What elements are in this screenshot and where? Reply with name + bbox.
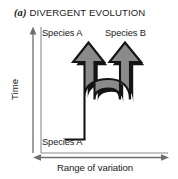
y-axis-arrow-icon: [30, 27, 37, 154]
label-species-a-top: Species A: [42, 28, 82, 38]
x-axis-double-arrow-icon: [33, 154, 169, 161]
y-axis-label: Time: [9, 68, 20, 112]
diagram-canvas: [0, 0, 178, 179]
label-species-b-top: Species B: [105, 28, 146, 38]
label-species-a-bottom: Species A: [42, 137, 82, 147]
x-axis-label: Range of variation: [57, 162, 133, 173]
divergent-evolution-figure: (a) DIVERGENT EVOLUTION Species A Spe: [0, 0, 178, 179]
